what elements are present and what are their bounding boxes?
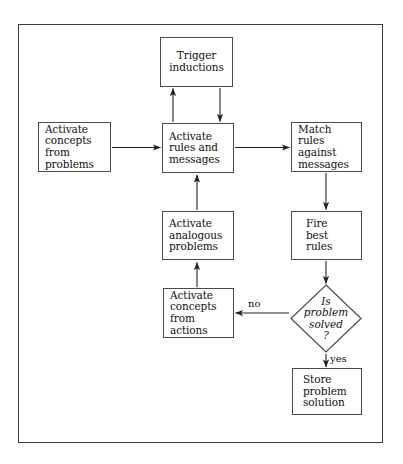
node-label: Store problem solution	[303, 374, 347, 409]
node-activate-concepts-from-actions[interactable]: Activate concepts from actions	[163, 288, 234, 338]
edge-label-yes: yes	[330, 353, 347, 364]
node-activate-analogous-problems[interactable]: Activate analogous problems	[162, 211, 234, 260]
node-label: Activate analogous problems	[169, 218, 222, 253]
node-label: Match rules against messages	[298, 124, 349, 170]
node-is-problem-solved[interactable]: Is problem solved ?	[290, 284, 362, 353]
node-store-problem-solution[interactable]: Store problem solution	[292, 368, 362, 415]
node-fire-best-rules[interactable]: Fire best rules	[291, 211, 362, 260]
node-label: Activate concepts from actions	[170, 290, 217, 336]
node-activate-rules-and-messages[interactable]: Activate rules and messages	[162, 123, 234, 173]
node-activate-concepts-from-problems[interactable]: Activate concepts from problems	[38, 122, 111, 172]
diamond-label-wrap: Is problem solved ?	[290, 284, 362, 353]
diagram-canvas: Trigger inductions Activate concepts fro…	[0, 0, 403, 464]
edge-label-no: no	[248, 298, 260, 309]
node-label: Activate rules and messages	[169, 131, 220, 166]
node-label: Trigger inductions	[161, 50, 232, 73]
node-label: Fire best rules	[306, 218, 332, 253]
node-label: Is problem solved ?	[304, 296, 348, 342]
node-label: Activate concepts from problems	[45, 124, 94, 170]
node-trigger-inductions[interactable]: Trigger inductions	[160, 37, 233, 87]
node-match-rules-against-messages[interactable]: Match rules against messages	[291, 122, 362, 172]
